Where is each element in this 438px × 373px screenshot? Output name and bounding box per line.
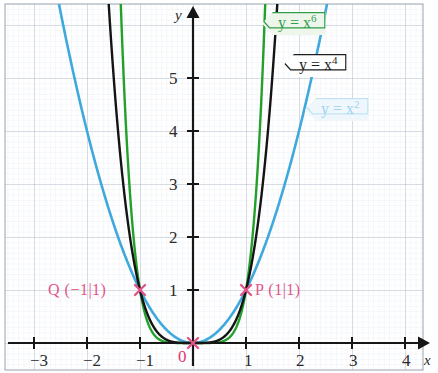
x-axis-label: x [424,353,431,368]
x-tick-label-4: 4 [402,352,411,369]
y-axis-label: y [175,8,182,23]
series-callout-x6: y = x6 [262,12,326,35]
series-label-x4: y = x [299,56,332,73]
y-tick-label-2: 2 [169,229,178,246]
point-label-p: P (1|1) [255,282,301,298]
x-tick-label-3: 3 [349,352,358,369]
x-tick-label-2: 2 [296,352,305,369]
x-tick-label--1: −1 [136,352,154,369]
series-exponent-x4: 4 [332,54,338,66]
plot-canvas [0,0,438,373]
y-tick-label-3: 3 [169,176,178,193]
series-label-x6: y = x [278,14,311,31]
x-axis-arrow [418,337,430,350]
grid-background [5,4,423,370]
function-graph-figure: −3 −2 −1 1 2 3 4 5 4 3 2 1 y x 0 Q (−1|1… [0,0,438,373]
origin-label: 0 [178,348,187,365]
x-tick-label--3: −3 [30,352,48,369]
series-exponent-x2: 2 [354,98,360,110]
series-callout-x4: y = x4 [283,54,347,77]
y-tick-label-4: 4 [169,123,178,140]
series-exponent-x6: 6 [311,12,317,24]
y-tick-label-1: 1 [169,282,178,299]
series-callout-x2: y = x2 [305,98,369,121]
x-tick-label-1: 1 [244,352,253,369]
x-tick-label--2: −2 [83,352,101,369]
series-label-x2: y = x [321,100,354,117]
point-label-q: Q (−1|1) [48,282,106,298]
y-tick-label-5: 5 [169,70,178,87]
